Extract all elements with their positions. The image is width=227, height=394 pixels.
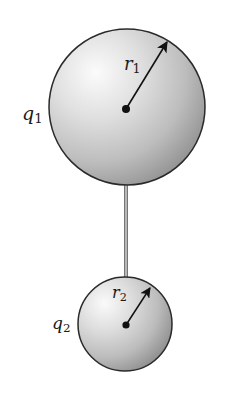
center-dot-1 xyxy=(122,105,130,113)
charge-subscript-q1: 1 xyxy=(34,111,42,126)
radius-label-r1: r1 xyxy=(124,55,141,73)
charge-label-q2: q2 xyxy=(52,315,70,332)
radius-symbol-r1: r xyxy=(124,53,133,74)
center-dot-2 xyxy=(122,321,129,328)
radius-subscript-r2: 2 xyxy=(120,291,127,304)
radius-label-r2: r2 xyxy=(112,285,127,301)
charge-symbol-q1: q xyxy=(22,102,34,124)
charge-subscript-q2: 2 xyxy=(63,321,71,335)
charge-label-q1: q1 xyxy=(22,104,43,123)
conducting-rod xyxy=(124,180,128,282)
radius-subscript-r1: 1 xyxy=(133,61,141,76)
charge-symbol-q2: q xyxy=(52,313,63,333)
two-spheres-diagram xyxy=(0,0,227,394)
radius-symbol-r2: r xyxy=(112,283,120,302)
